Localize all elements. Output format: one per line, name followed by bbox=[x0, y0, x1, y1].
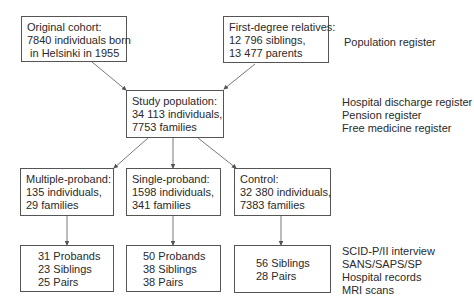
single-proband-box: Single-proband: 1598 individuals, 341 fa… bbox=[126, 168, 221, 216]
box-line: 38 Siblings bbox=[143, 263, 215, 276]
side-label-line: Hospital records bbox=[342, 271, 435, 284]
box-line: 32 380 individuals, bbox=[240, 186, 325, 199]
box-line: 25 Pairs bbox=[38, 276, 108, 289]
side-label-line: Pension register bbox=[342, 109, 472, 122]
box-line: Multiple-proband: bbox=[26, 173, 108, 186]
box-line: 135 individuals, bbox=[26, 186, 108, 199]
box-line: 50 Probands bbox=[143, 250, 215, 263]
box-line: 1598 individuals, bbox=[132, 186, 215, 199]
control-result-box: 56 Siblings 28 Pairs bbox=[234, 245, 331, 293]
box-line: Control: bbox=[240, 173, 325, 186]
registers-label: Hospital discharge register Pension regi… bbox=[342, 96, 472, 135]
side-label-line: Hospital discharge register bbox=[342, 96, 472, 109]
box-line: 7383 families bbox=[240, 199, 325, 212]
box-line: 31 Probands bbox=[38, 250, 108, 263]
box-line: 29 families bbox=[26, 199, 108, 212]
study-population-box: Study population: 34 113 individuals, 77… bbox=[126, 90, 224, 138]
box-line: Single-proband: bbox=[132, 173, 215, 186]
side-label-line: Population register bbox=[344, 36, 436, 49]
box-line: 13 477 parents bbox=[229, 47, 323, 60]
box-line: Original cohort: bbox=[27, 21, 121, 34]
side-label-line: Free medicine register bbox=[342, 122, 472, 135]
side-label-line: MRI scans bbox=[342, 284, 435, 297]
single-proband-result-box: 50 Probands 38 Siblings 38 Pairs bbox=[126, 245, 221, 292]
box-line: 341 families bbox=[132, 199, 215, 212]
side-label-line: SCID-P/II interview bbox=[342, 245, 435, 258]
box-line: 7840 individuals born bbox=[27, 34, 121, 47]
first-degree-relatives-box: First-degree relatives: 12 796 siblings,… bbox=[223, 16, 329, 63]
box-line: in Helsinki in 1955 bbox=[27, 47, 121, 60]
population-register-label: Population register bbox=[344, 36, 436, 49]
multiple-proband-result-box: 31 Probands 23 Siblings 25 Pairs bbox=[20, 245, 114, 292]
box-line: 38 Pairs bbox=[143, 276, 215, 289]
control-box: Control: 32 380 individuals, 7383 famili… bbox=[234, 168, 331, 216]
box-line: 23 Siblings bbox=[38, 263, 108, 276]
box-line: Study population: bbox=[132, 95, 218, 108]
box-line: 7753 families bbox=[132, 121, 218, 134]
box-line: 12 796 siblings, bbox=[229, 34, 323, 47]
side-label-line: SANS/SAPS/SP bbox=[342, 258, 435, 271]
box-line: 28 Pairs bbox=[256, 270, 325, 283]
original-cohort-box: Original cohort: 7840 individuals born i… bbox=[21, 16, 127, 62]
assessments-label: SCID-P/II interview SANS/SAPS/SP Hospita… bbox=[342, 245, 435, 297]
box-line: 56 Siblings bbox=[256, 257, 325, 270]
box-line: 34 113 individuals, bbox=[132, 108, 218, 121]
box-line: First-degree relatives: bbox=[229, 21, 323, 34]
multiple-proband-box: Multiple-proband: 135 individuals, 29 fa… bbox=[20, 168, 114, 216]
